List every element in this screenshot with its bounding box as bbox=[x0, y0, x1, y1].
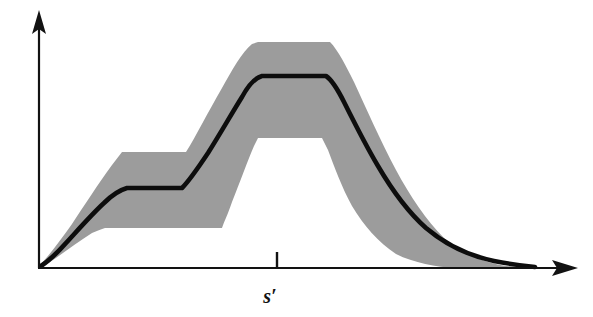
figure-container: s′ bbox=[0, 0, 593, 317]
x-axis-tick-label-s-prime: s′ bbox=[262, 285, 276, 307]
figure-svg: s′ bbox=[0, 0, 593, 317]
